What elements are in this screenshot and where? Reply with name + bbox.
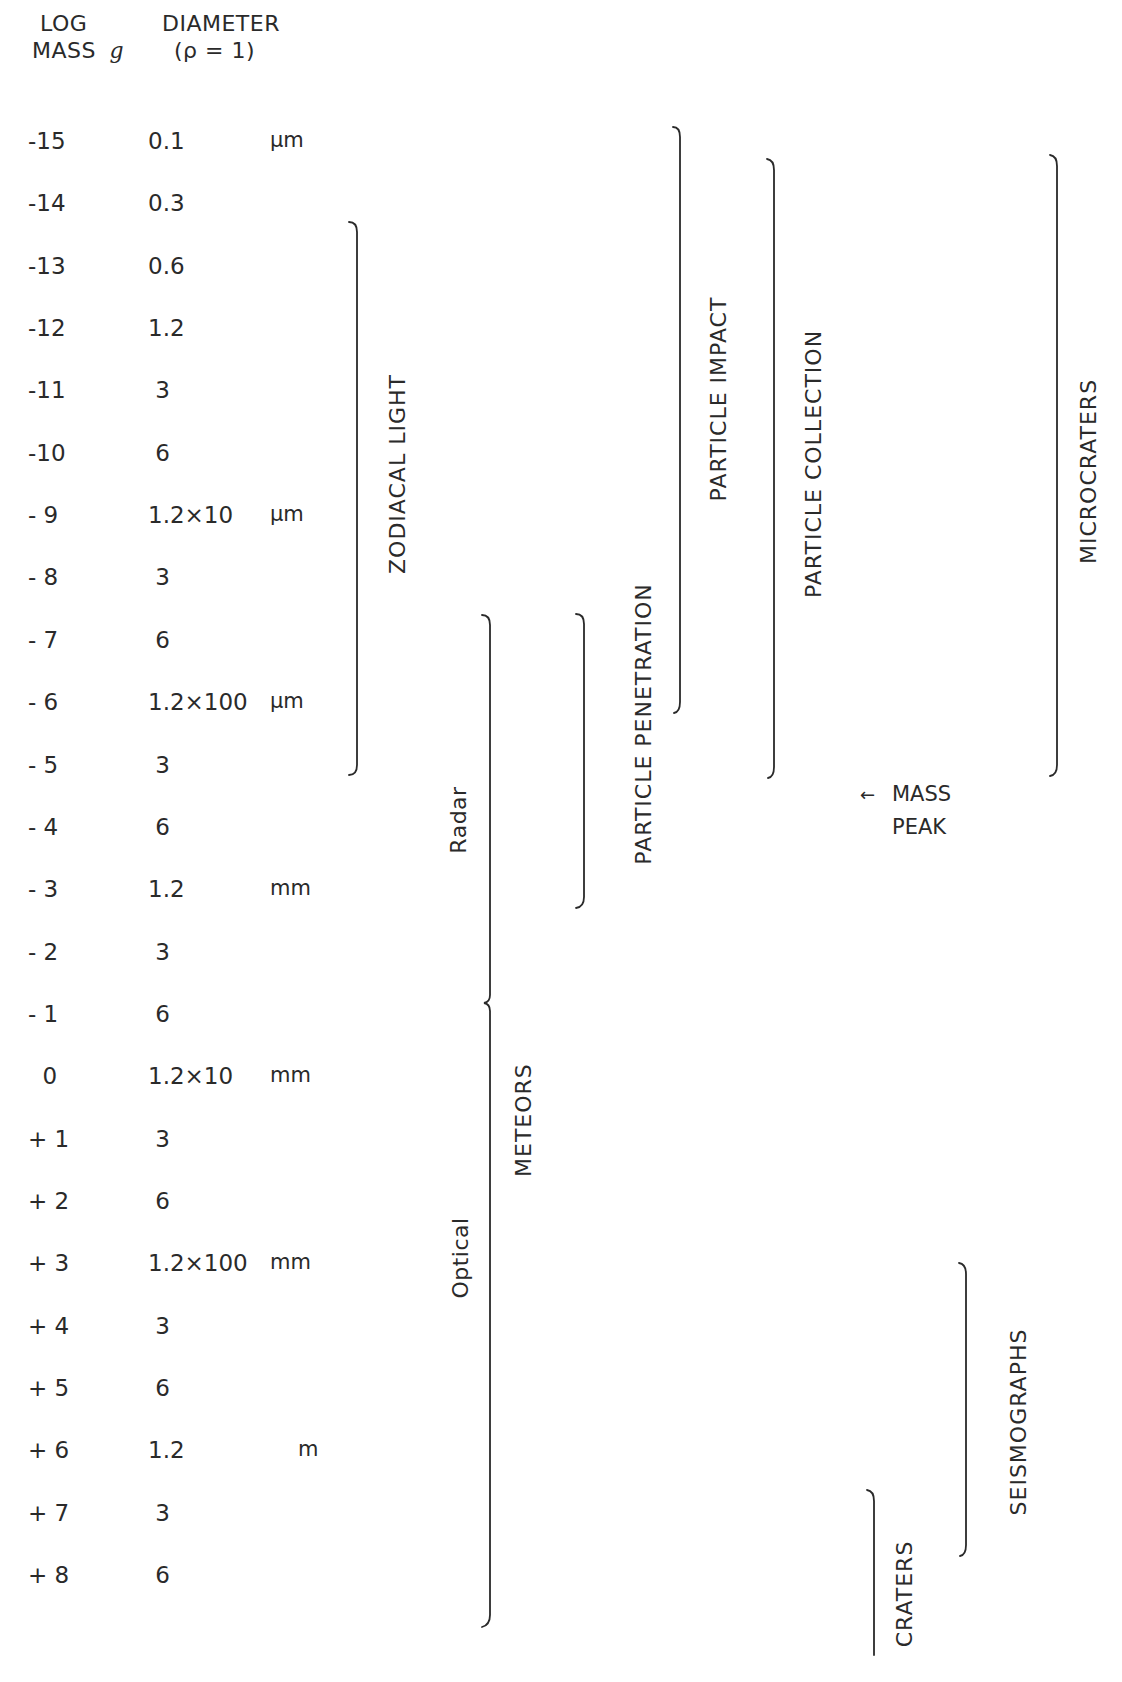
particle-impact-label: PARTICLE IMPACT bbox=[706, 294, 734, 504]
particle-collection-bracket bbox=[767, 159, 774, 778]
craters-bracket bbox=[867, 1490, 874, 1655]
zodiacal-light-label: ZODIACAL LIGHT bbox=[385, 364, 413, 584]
mass-peak-annotation: ←MASS PEAK bbox=[860, 778, 951, 843]
particle-penetration-bracket bbox=[576, 614, 584, 908]
zodiacal-light-bracket bbox=[349, 222, 357, 775]
craters-label: CRATERS bbox=[892, 1539, 920, 1649]
left-arrow-icon: ← bbox=[860, 779, 892, 811]
particle-collection-label: PARTICLE COLLECTION bbox=[801, 319, 829, 609]
seismographs-label: SEISMOGRAPHS bbox=[1006, 1322, 1034, 1522]
particle-penetration-label: PARTICLE PENETRATION bbox=[631, 574, 659, 874]
meteors-label: METEORS bbox=[511, 1067, 539, 1177]
radar-label: Radar bbox=[446, 780, 474, 860]
mass-peak-line1: MASS bbox=[892, 782, 951, 806]
radar-optical-bracket bbox=[482, 615, 490, 1627]
microcraters-bracket bbox=[1050, 155, 1057, 776]
particle-impact-bracket bbox=[673, 127, 680, 713]
optical-label: Optical bbox=[448, 1208, 476, 1308]
seismographs-bracket bbox=[959, 1263, 966, 1556]
microcraters-label: MICROCRATERS bbox=[1076, 384, 1104, 564]
range-brackets bbox=[0, 0, 1122, 1682]
mass-peak-line2: PEAK bbox=[860, 811, 951, 843]
